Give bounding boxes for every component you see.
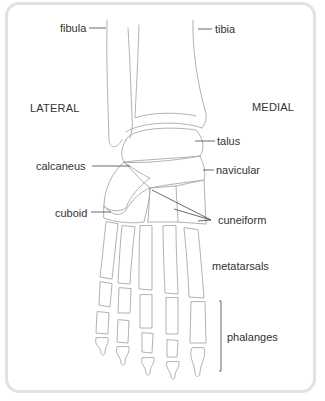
label-calcaneus: calcaneus — [36, 160, 86, 172]
tibia-bone — [135, 25, 196, 118]
calcaneus-bone — [104, 162, 150, 211]
talus-bone — [122, 128, 203, 162]
label-tibia: tibia — [215, 23, 235, 35]
label-medial: MEDIAL — [252, 101, 294, 113]
metatarsal-bones — [100, 222, 204, 298]
label-cuboid: cuboid — [55, 207, 87, 219]
label-phalanges: phalanges — [227, 331, 278, 343]
cuneiform-leader-1 — [152, 190, 211, 220]
phalanges-bracket — [219, 301, 221, 371]
phalange-bones — [96, 282, 206, 379]
fibula-bone — [107, 20, 122, 147]
label-lateral: LATERAL — [30, 102, 80, 114]
label-fibula: fibula — [60, 22, 86, 34]
label-talus: talus — [217, 135, 240, 147]
cuneiform-leader-3 — [198, 220, 211, 221]
label-cuneiform: cuneiform — [218, 214, 266, 226]
label-metatarsals: metatarsals — [212, 260, 269, 272]
label-navicular: navicular — [216, 164, 260, 176]
